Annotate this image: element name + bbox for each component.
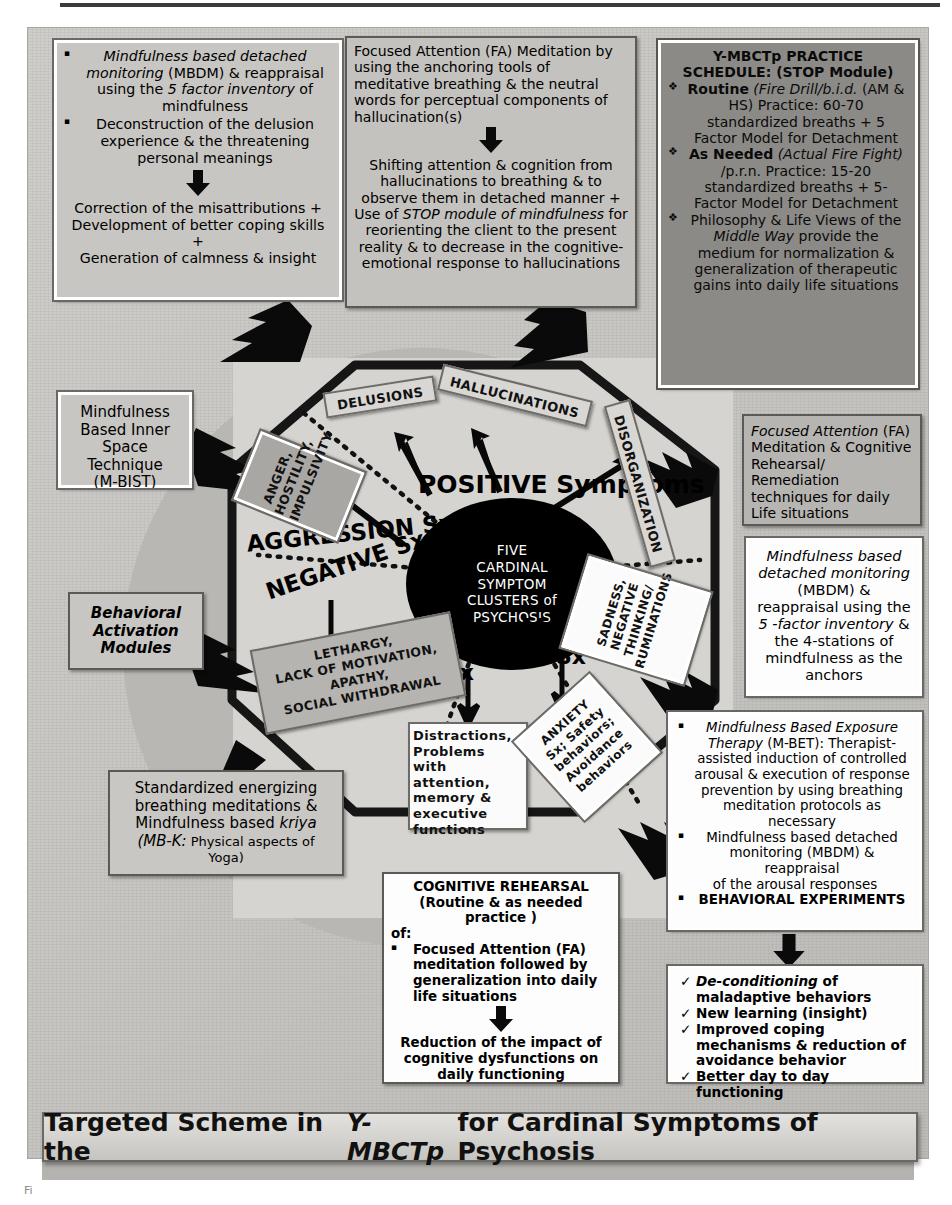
outcome-check-4: Better day to day functioning (678, 1069, 912, 1101)
symptom-chip-distractions: Distractions, Problems with attention, m… (408, 722, 528, 830)
figure-banner: Targeted Scheme in the Y-MBCTp for Cardi… (42, 1112, 918, 1162)
delusion-b2-text: Deconstruction of the delusion experienc… (96, 116, 314, 165)
box-mbet: Mindfulness Based Exposure Therapy (M-BE… (668, 712, 922, 930)
figure-caption: Fi (24, 1184, 33, 1197)
box-fa-cognitive-remediation: Focused Attention (FA) Meditation & Cogn… (742, 414, 922, 526)
mbdm-aff-em2: 5 -factor inventory (758, 616, 893, 632)
down-arrow-icon (185, 170, 211, 196)
delusion-outcome-4: Generation of calmness & insight (64, 250, 332, 267)
halluc-b-em: STOP module of mindfulness (403, 206, 604, 222)
mbet-bullet-2: Mindfulness based detached monitoring (M… (678, 830, 912, 877)
delusion-outcome-1: Correction of the misattributions + (64, 200, 332, 217)
outcome-c3: Improved coping mechanisms & reduction o… (696, 1021, 906, 1069)
practice-title-1: Y-MBCTp PRACTICE (668, 48, 908, 64)
bam-line-3: Modules (77, 640, 195, 658)
kriya-l3em: kriya (280, 814, 317, 832)
box-cognitive-rehearsal: COGNITIVE REHEARSAL (Routine & as needed… (382, 872, 620, 1084)
practice-phil-em: Middle Way (713, 228, 794, 244)
mbist-line-4: Technique (68, 457, 182, 475)
delusion-bullet-2: Deconstruction of the delusion experienc… (64, 116, 332, 166)
box-behavioral-activation: Behavioral Activation Modules (68, 592, 204, 670)
core-line-2: CARDINAL (467, 559, 557, 576)
practice-title-2: SCHEDULE: (STOP Module) (668, 64, 908, 80)
distractions-line-2: Problems with (413, 744, 523, 775)
cogreh-bullet-text: Focused Attention (FA) meditation follow… (413, 942, 597, 1004)
box-outcomes: De-conditioning of maladaptive behaviors… (668, 966, 922, 1082)
distractions-line-3: attention, (413, 775, 523, 791)
delusion-outcome-2: Development of better coping skills (64, 217, 332, 234)
bam-line-1: Behavioral (77, 605, 195, 623)
outcome-c1-em: De-conditioning (696, 973, 818, 989)
box-hallucination-intervention: Focused Attention (FA) Meditation by usi… (345, 36, 637, 308)
figure-page: FIVE CARDINAL SYMPTOM CLUSTERS of PSYCHO… (0, 0, 952, 1205)
practice-item-philosophy: Philosophy & Life Views of the Middle Wa… (668, 212, 908, 294)
delusion-bullet-1: Mindfulness based detached monitoring (M… (64, 48, 332, 114)
box-practice-schedule: Y-MBCTp PRACTICE SCHEDULE: (STOP Module)… (658, 40, 918, 388)
cogreh-title: COGNITIVE REHEARSAL (391, 879, 611, 895)
outcome-check-3: Improved coping mechanisms & reduction o… (678, 1022, 912, 1070)
down-arrow-icon (772, 934, 806, 968)
practice-routine-b: Routine (688, 81, 749, 97)
banner-pre: Targeted Scheme in the (44, 1108, 347, 1166)
core-line-3: SYMPTOM (467, 576, 557, 593)
kriya-line-3: Mindfulness based kriya (117, 815, 335, 833)
kriya-line-4: (MB-K: Physical aspects of (117, 833, 335, 851)
practice-routine-em: (Fire Drill/b.i.d. (749, 81, 858, 97)
mbist-line-3: Space (68, 439, 182, 457)
mbet-bullet-1: Mindfulness Based Exposure Therapy (M-BE… (678, 720, 912, 830)
mbist-line-1: Mindfulness (68, 404, 182, 422)
mbet-bullet-3: BEHAVIORAL EXPERIMENTS (678, 892, 912, 908)
box-mbdm-affective: Mindfulness based detached monitoring (M… (746, 538, 922, 696)
banner-post: for Cardinal Symptoms of Psychosis (458, 1108, 916, 1166)
hallucination-top-text: Focused Attention (FA) Meditation by usi… (354, 43, 628, 125)
outcome-c4: Better day to day functioning (696, 1068, 829, 1100)
kriya-line-2: breathing meditations & (117, 798, 335, 816)
kriya-line-1: Standardized energizing (117, 780, 335, 798)
box-mbist: Mindfulness Based Inner Space Technique … (58, 392, 192, 488)
distractions-line-5: executive (413, 806, 523, 822)
cogreh-of: of: (391, 926, 611, 942)
hallucination-bottom-text: Shifting attention & cognition from hall… (354, 157, 628, 272)
top-rule (60, 3, 940, 7)
delusion-outcome-3: + (64, 233, 332, 250)
mbdm-aff-em1: Mindfulness based detached monitoring (758, 548, 910, 581)
outcome-check-2: New learning (insight) (678, 1006, 912, 1022)
mbdm-aff-rest1: (MBDM) & reappraisal using the (757, 582, 910, 615)
core-line-1: FIVE (467, 542, 557, 559)
mbet-b2: Mindfulness based detached monitoring (M… (706, 830, 898, 876)
outcome-c2: New learning (insight) (696, 1005, 868, 1021)
box-delusion-intervention: Mindfulness based detached monitoring (M… (54, 40, 342, 300)
cogreh-outcome: Reduction of the impact of cognitive dys… (391, 1035, 611, 1082)
distractions-line-4: memory & (413, 790, 523, 806)
delusion-b1-em2: 5 factor inventory (168, 81, 295, 97)
cogreh-bullet: Focused Attention (FA) meditation follow… (391, 942, 611, 1005)
down-arrow-icon (488, 1006, 514, 1032)
kriya-l4em: (MB-K: (138, 832, 187, 850)
distractions-line-6: functions (413, 822, 523, 838)
down-arrow-icon (478, 127, 504, 153)
bam-line-2: Activation (77, 623, 195, 641)
practice-phil-a: Philosophy & Life Views of the (691, 212, 902, 228)
practice-asneeded-em: (Actual Fire Fight) (773, 146, 903, 162)
core-line-4: CLUSTERS of (467, 592, 557, 609)
mbet-b2-tail: of the arousal responses (678, 877, 912, 893)
practice-asneeded-rest: /p.r.n. Practice: 15-20 standardized bre… (694, 163, 898, 212)
banner-em: Y-MBCTp (347, 1108, 458, 1166)
kriya-l4rest: Physical aspects of (187, 834, 315, 849)
kriya-line-5: Yoga) (117, 850, 335, 865)
mbist-line-2: Based Inner (68, 422, 182, 440)
practice-asneeded-b: As Needed (689, 146, 773, 162)
cogreh-sub: (Routine & as needed practice ) (391, 895, 611, 926)
cluster-label-positive: POSITIVE Symptoms (418, 470, 705, 499)
mbist-line-5: (M-BIST) (68, 474, 182, 492)
practice-item-routine: Routine (Fire Drill/b.i.d. (AM & HS) Pra… (668, 81, 908, 147)
practice-item-asneeded: As Needed (Actual Fire Fight) /p.r.n. Pr… (668, 146, 908, 212)
mbet-b3: BEHAVIORAL EXPERIMENTS (699, 892, 906, 907)
fa-cr-em: Focused Attention (751, 423, 878, 439)
box-breathing-kriya: Standardized energizing breathing medita… (108, 770, 344, 876)
outcome-check-1: De-conditioning of maladaptive behaviors (678, 974, 912, 1006)
distractions-line-1: Distractions, (413, 728, 523, 744)
kriya-l3a: Mindfulness based (135, 814, 279, 832)
